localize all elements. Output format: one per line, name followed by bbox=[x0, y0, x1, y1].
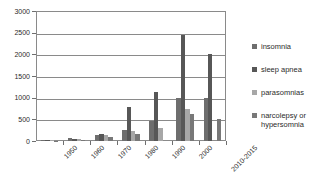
chart-legend: insomniasleep apneaparasomniasnarcolepsy… bbox=[252, 42, 330, 143]
y-axis-tick-label: 1000 bbox=[14, 94, 30, 101]
x-axis-tick-label: 1990 bbox=[171, 144, 188, 161]
x-axis-tick-label: 2010-2015 bbox=[230, 144, 259, 173]
y-axis-tick-label: 2000 bbox=[14, 51, 30, 58]
legend-swatch-icon bbox=[252, 113, 257, 118]
x-axis-tick-label: 2000 bbox=[198, 144, 215, 161]
y-axis-tick-label: 0 bbox=[26, 138, 30, 145]
y-axis: 300025002000150010005000 bbox=[0, 0, 36, 145]
legend-item-label: narcolepsy or hypersomnia bbox=[261, 111, 330, 129]
y-axis-tick-label: 500 bbox=[18, 116, 30, 123]
legend-item[interactable]: sleep apnea bbox=[252, 65, 330, 74]
legend-item-label: insomnia bbox=[261, 42, 291, 51]
gridline bbox=[37, 77, 225, 78]
gridline bbox=[37, 120, 225, 121]
x-axis-tick-label: 1960 bbox=[89, 144, 106, 161]
legend-item[interactable]: narcolepsy or hypersomnia bbox=[252, 111, 330, 129]
legend-item[interactable]: parasomnias bbox=[252, 88, 330, 97]
y-axis-tick-label: 1500 bbox=[14, 73, 30, 80]
gridline bbox=[37, 34, 225, 35]
bar-chart: 300025002000150010005000 195019601970198… bbox=[0, 0, 330, 190]
legend-swatch-icon bbox=[252, 44, 257, 49]
x-axis-tick-label: 1950 bbox=[62, 144, 79, 161]
plot-area bbox=[36, 11, 226, 141]
legend-swatch-icon bbox=[252, 90, 257, 95]
gridline bbox=[37, 55, 225, 56]
legend-item-label: sleep apnea bbox=[261, 65, 302, 74]
x-axis: 1950196019701980199020002010-2015 bbox=[36, 144, 236, 190]
x-axis-tick-label: 1980 bbox=[144, 144, 161, 161]
x-axis-tick-label: 1970 bbox=[116, 144, 133, 161]
y-axis-tick-label: 3000 bbox=[14, 8, 30, 15]
y-axis-tick-label: 2500 bbox=[14, 29, 30, 36]
gridline bbox=[37, 99, 225, 100]
legend-item[interactable]: insomnia bbox=[252, 42, 330, 51]
legend-swatch-icon bbox=[252, 67, 257, 72]
legend-item-label: parasomnias bbox=[261, 88, 304, 97]
